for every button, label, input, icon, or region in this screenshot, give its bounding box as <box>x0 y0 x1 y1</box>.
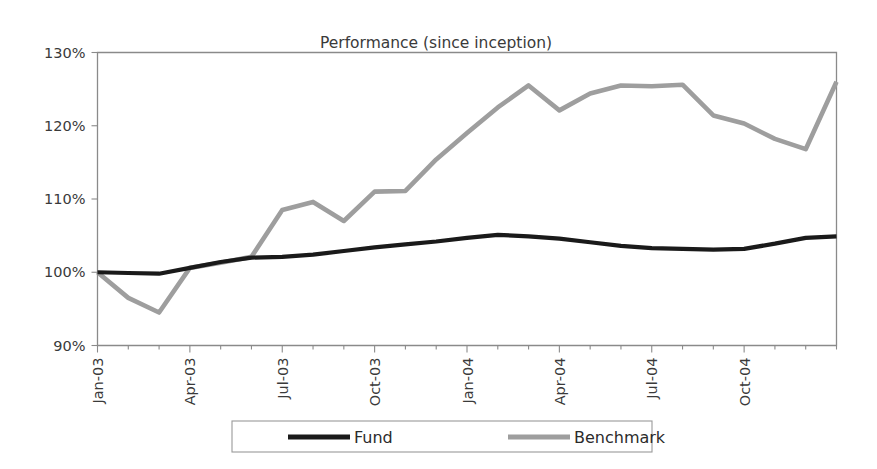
performance-chart: Performance (since inception) 90%100%110… <box>0 0 877 469</box>
y-axis-ticks: 90%100%110%120%130% <box>44 45 97 354</box>
x-tick-label: Apr-04 <box>552 358 568 406</box>
y-tick-label: 90% <box>53 338 85 354</box>
x-tick-label: Jan-04 <box>460 358 476 405</box>
x-tick-label: Oct-04 <box>737 358 753 407</box>
chart-title: Performance (since inception) <box>320 34 552 52</box>
x-tick-label: Jul-03 <box>275 358 291 400</box>
series-line-fund <box>98 235 837 274</box>
chart-legend: FundBenchmark <box>232 421 666 452</box>
data-series-group <box>98 82 837 313</box>
legend-label-fund: Fund <box>354 428 393 447</box>
y-tick-label: 100% <box>44 264 85 280</box>
legend-label-benchmark: Benchmark <box>574 428 666 447</box>
x-tick-label: Jul-04 <box>644 358 660 400</box>
y-tick-label: 130% <box>44 45 85 61</box>
y-tick-label: 120% <box>44 118 85 134</box>
x-tick-label: Oct-03 <box>367 358 383 407</box>
x-axis-labels: Jan-03Apr-03Jul-03Oct-03Jan-04Apr-04Jul-… <box>90 358 753 407</box>
x-axis-ticks <box>98 346 837 353</box>
series-line-benchmark <box>98 82 837 313</box>
chart-canvas: Performance (since inception) 90%100%110… <box>0 0 877 469</box>
plot-frame <box>98 53 837 346</box>
x-tick-label: Apr-03 <box>182 358 198 406</box>
y-tick-label: 110% <box>44 191 85 207</box>
x-tick-label: Jan-03 <box>90 358 106 405</box>
axis-frame <box>98 53 837 346</box>
